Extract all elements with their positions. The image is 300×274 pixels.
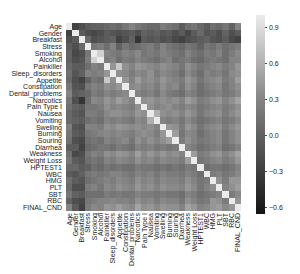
colorbar-tick-text: 0.0 <box>266 132 279 139</box>
x-tick-label: FINAL_CND <box>234 213 241 252</box>
colorbar-tick-text: −0.6 <box>266 204 283 211</box>
heatmap-cell <box>235 63 241 70</box>
heatmap-cell <box>235 117 241 124</box>
heatmap-cell <box>235 184 241 191</box>
heatmap-cell <box>235 171 241 178</box>
heatmap-cell <box>235 90 241 97</box>
colorbar-tick-text: −0.3 <box>266 168 283 175</box>
colorbar <box>256 15 265 214</box>
colorbar-tick-text: 0.9 <box>266 24 279 31</box>
x-axis-labels: AgeGenderBreakfastStressSmokingAlcoholPa… <box>66 213 241 273</box>
heatmap-grid <box>66 23 241 211</box>
heatmap-cell <box>235 97 241 104</box>
colorbar-tick-label: 0.9 <box>266 24 279 31</box>
heatmap-cell <box>235 43 241 50</box>
colorbar-tick-text: 0.6 <box>266 60 279 67</box>
heatmap-cell <box>235 50 241 57</box>
colorbar-tick-label: 0.3 <box>266 96 279 103</box>
heatmap-cell <box>235 70 241 77</box>
colorbar-tick-text: 0.3 <box>266 96 279 103</box>
y-tick-label: FINAL_CND <box>23 204 62 211</box>
heatmap-cell <box>235 204 241 211</box>
heatmap-cell <box>235 157 241 164</box>
heatmap-cell <box>235 83 241 90</box>
heatmap-cell <box>235 130 241 137</box>
heatmap-cell <box>235 191 241 198</box>
colorbar-tick-label: 0.6 <box>266 60 279 67</box>
heatmap-cell <box>235 36 241 43</box>
colorbar-ticks: 0.90.60.30.0−0.3−0.6 <box>266 15 300 214</box>
heatmap-cell <box>235 144 241 151</box>
heatmap-cell <box>235 110 241 117</box>
heatmap-cell <box>235 23 241 30</box>
heatmap-cell <box>235 137 241 144</box>
colorbar-tick-label: 0.0 <box>266 132 279 139</box>
heatmap-cell <box>235 57 241 64</box>
colorbar-tick-label: −0.6 <box>266 204 283 211</box>
heatmap-cell <box>235 198 241 205</box>
heatmap-cell <box>235 77 241 84</box>
heatmap-cell <box>235 124 241 131</box>
heatmap-cell <box>235 30 241 37</box>
colorbar-tick-label: −0.3 <box>266 168 283 175</box>
heatmap-cell <box>235 177 241 184</box>
heatmap-cell <box>235 164 241 171</box>
heatmap-cell <box>235 151 241 158</box>
heatmap-cell <box>235 104 241 111</box>
correlation-heatmap-figure: AgeGenderBreakfastStressSmokingAlcoholPa… <box>0 0 300 274</box>
y-axis-labels: AgeGenderBreakfastStressSmokingAlcoholPa… <box>0 23 64 211</box>
